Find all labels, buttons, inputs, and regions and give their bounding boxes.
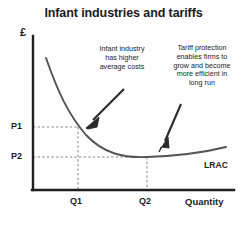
annotation-arrow-tariff [159,104,181,152]
guide-lines [33,127,148,190]
lrac-curve-label: LRAC [204,160,228,170]
x-tick-q1: Q1 [70,196,82,206]
annotation-infant-industry: Infant industry has higher average costs [84,45,160,71]
annotation-arrow-infant [86,89,124,129]
plot-area [0,0,247,225]
annotation-tariff-protection: Tariff protection enables firms to grow … [160,44,244,88]
annotation-infant-line-3: average costs [84,63,160,72]
chart-figure: Infant industries and tariffs £ P1 P2 [0,0,247,225]
x-axis-label: Quantity [185,196,224,207]
x-tick-q2: Q2 [139,196,151,206]
annotation-tariff-line-5: long run [160,79,244,88]
y-tick-p2: P2 [11,151,22,161]
y-tick-p1: P1 [11,121,22,131]
